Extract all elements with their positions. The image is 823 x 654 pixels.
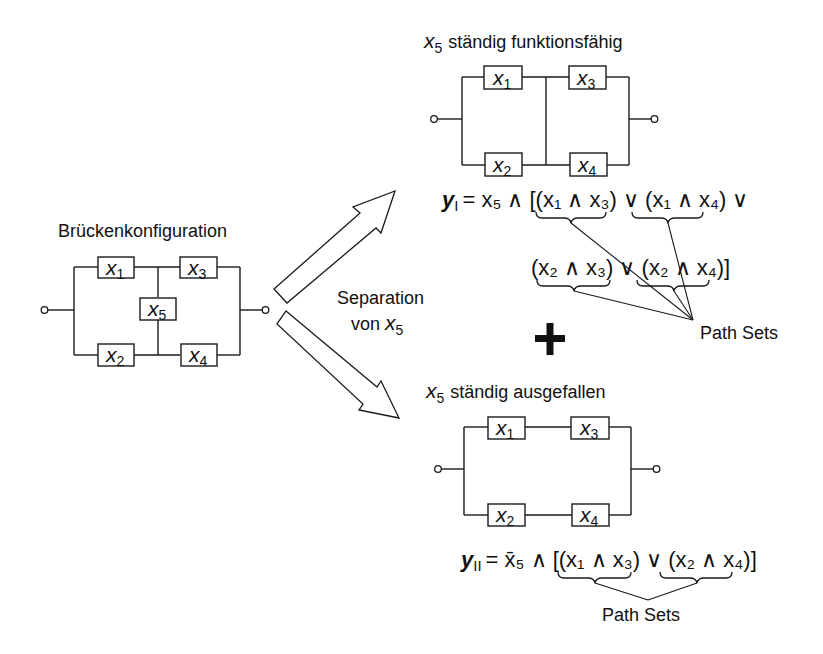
brace-x1-x4 — [632, 212, 703, 223]
failed-component-x3: x3 — [571, 416, 609, 442]
bridge-title: Brückenkonfiguration — [58, 221, 227, 241]
functional-component-x2: x2 — [485, 153, 522, 179]
brace-x1-x3-failed — [558, 572, 631, 583]
failed-component-x1: x1 — [488, 416, 525, 442]
case-failed-title: x5ständig ausgefallen — [425, 379, 605, 406]
arrow-up-right-icon — [274, 191, 395, 303]
functional-component-x1: x1 — [484, 66, 522, 92]
failed-component-x2: x2 — [488, 503, 525, 529]
failed-component-x4: x4 — [572, 503, 609, 529]
svg-text:yII= x̄₅ ∧ [(x₁ ∧ x₃) ∨ (x₂ ∧: yII= x̄₅ ∧ [(x₁ ∧ x₃) ∨ (x₂ ∧ x₄)] — [460, 547, 757, 574]
svg-text:von x5: von x5 — [351, 311, 404, 338]
path-sets-label-failed: Path Sets — [602, 605, 680, 625]
case-functional-title: x5ständig funktionsfähig — [423, 29, 622, 56]
bridge-component-x3: x3 — [180, 256, 217, 282]
svg-text:Separation: Separation — [337, 288, 424, 308]
reliability-diagram: Brückenkonfiguration x1 x2 x3 x — [0, 0, 823, 654]
bridge-component-x2: x2 — [98, 343, 134, 369]
brace-x2-x4-failed — [660, 572, 732, 583]
functional-component-x4: x4 — [570, 153, 607, 179]
plus-icon — [535, 323, 565, 355]
bridge-configuration: Brückenkonfiguration x1 x2 x3 x — [41, 221, 269, 369]
brace-x2-x3 — [537, 280, 610, 291]
case-x5-failed: x5ständig ausgefallen x1 x2 x3 x4 — [425, 379, 757, 625]
separation-label: Separation von x5 — [337, 288, 424, 338]
functional-component-x3: x3 — [569, 66, 606, 92]
equation-y2: yII= x̄₅ ∧ [(x₁ ∧ x₃) ∨ (x₂ ∧ x₄)] — [460, 547, 757, 574]
case-x5-functional: x5ständig funktionsfähig x1 x2 x3 x4 — [423, 29, 778, 343]
failed-input-terminal — [435, 466, 442, 473]
failed-output-terminal — [653, 466, 660, 473]
bridge-component-x4: x4 — [181, 343, 217, 369]
bridge-input-terminal — [41, 307, 48, 314]
bridge-output-terminal — [262, 307, 269, 314]
functional-output-terminal — [651, 116, 658, 123]
functional-input-terminal — [431, 116, 438, 123]
brace-x2-x4 — [637, 280, 709, 291]
bridge-component-x1: x1 — [98, 256, 134, 282]
path-sets-label-functional: Path Sets — [700, 323, 778, 343]
svg-text:yI= x₅ ∧ [(x₁ ∧ x₃) ∨ (x₁ ∧ x₄: yI= x₅ ∧ [(x₁ ∧ x₃) ∨ (x₁ ∧ x₄) ∨ — [441, 187, 748, 214]
equation-y1: yI= x₅ ∧ [(x₁ ∧ x₃) ∨ (x₁ ∧ x₄) ∨ (x₂ ∧ … — [441, 187, 748, 280]
brace-x1-x3 — [536, 212, 606, 223]
svg-text:(x₂ ∧ x₃) ∨ (x₂ ∧ x₄)]: (x₂ ∧ x₃) ∨ (x₂ ∧ x₄)] — [531, 255, 730, 280]
bridge-component-x5: x5 — [140, 297, 176, 323]
